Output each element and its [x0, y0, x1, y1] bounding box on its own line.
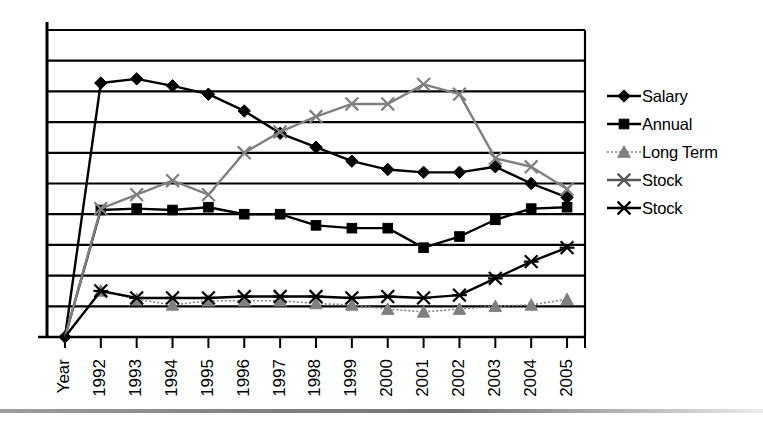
x-axis-tick-label: 1992: [90, 359, 109, 397]
legend-label: Salary: [642, 86, 688, 106]
data-point-square-icon: [562, 202, 572, 212]
data-point-square-icon: [619, 119, 629, 129]
legend-marker-asterisk-icon: [606, 198, 642, 218]
legend-label: Annual: [642, 114, 692, 134]
x-axis-tick-label: 2000: [377, 359, 396, 397]
chart-figure: Year199219931994199519961997199819992000…: [0, 0, 763, 429]
data-point-square-icon: [132, 204, 142, 214]
x-axis-tick-label: 1999: [341, 359, 360, 397]
data-point-square-icon: [491, 215, 501, 225]
data-point-square-icon: [383, 223, 393, 233]
legend-label: Stock: [642, 170, 682, 190]
legend-item-0[interactable]: Salary: [606, 82, 761, 109]
legend-item-1[interactable]: Annual: [606, 110, 761, 137]
x-axis-tick-label: 2002: [449, 359, 468, 397]
legend-item-4[interactable]: Stock: [606, 194, 761, 221]
data-point-square-icon: [526, 204, 536, 214]
data-point-square-icon: [347, 223, 357, 233]
data-point-square-icon: [275, 209, 285, 219]
data-point-asterisk-icon: [617, 201, 632, 214]
data-point-square-icon: [239, 209, 249, 219]
data-point-square-icon: [204, 202, 214, 212]
legend-item-2[interactable]: Long Term: [606, 138, 761, 165]
x-axis-tick-label: 2005: [557, 359, 576, 397]
legend-marker-triangle-icon: [606, 142, 642, 162]
legend-item-3[interactable]: Stock: [606, 166, 761, 193]
x-axis-tick-label: 2001: [413, 359, 432, 397]
x-axis-tick-labels: Year199219931994199519961997199819992000…: [54, 359, 575, 397]
x-axis-tick-label: 2004: [521, 359, 540, 397]
x-axis-tick-label: 1995: [198, 359, 217, 397]
data-point-square-icon: [311, 221, 321, 231]
chart-legend: SalaryAnnualLong TermStockStock: [606, 82, 761, 221]
data-point-square-icon: [168, 205, 178, 215]
x-axis-tick-label: 1996: [234, 359, 253, 397]
legend-marker-x-icon: [606, 170, 642, 190]
x-axis-tick-label: 1993: [126, 359, 145, 397]
x-axis-tick-label: Year: [54, 359, 73, 394]
x-axis-tick-label: 1997: [270, 359, 289, 397]
legend-marker-square-icon: [606, 114, 642, 134]
legend-label: Long Term: [642, 142, 718, 162]
x-axis-tick-label: 1994: [162, 359, 181, 397]
legend-marker-diamond-icon: [606, 86, 642, 106]
data-point-diamond-icon: [618, 89, 630, 101]
page-bottom-rule: [0, 409, 763, 413]
x-axis-tick-label: 1998: [305, 359, 324, 397]
data-point-square-icon: [419, 243, 429, 253]
x-axis-tick-label: 2003: [485, 359, 504, 397]
legend-label: Stock: [642, 198, 682, 218]
data-point-square-icon: [455, 232, 465, 242]
